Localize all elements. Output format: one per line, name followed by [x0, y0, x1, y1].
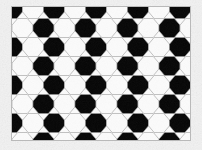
hexagon-cell-dark	[170, 38, 191, 57]
hexagon-cell-light	[138, 57, 159, 76]
image-canvas	[0, 0, 202, 150]
hexagon-cell-dark	[75, 95, 96, 114]
hexagon-cell-light	[107, 38, 128, 57]
hexagon-cell-light	[65, 38, 86, 57]
hexagon-cell-light	[149, 114, 170, 133]
hexagon-cell-dark	[86, 114, 107, 133]
hexagon-cell-dark	[33, 19, 54, 38]
hexagon-cell-dark	[159, 95, 180, 114]
hexagon-cell-light	[54, 95, 75, 114]
hexagon-cell-light	[107, 76, 128, 95]
hexagon-cell-dark	[44, 114, 65, 133]
hexagon-cell-dark	[33, 95, 54, 114]
hexagon-cell-dark	[75, 19, 96, 38]
hexagon-cell-light	[23, 114, 44, 133]
hexagon-cell-dark	[128, 76, 149, 95]
hexagon-cell-light	[149, 38, 170, 57]
hexagon-cell-light	[12, 19, 33, 38]
hexagon-cell-dark	[117, 57, 138, 76]
hexagon-cell-dark	[128, 38, 149, 57]
hexagon-cell-dark	[44, 76, 65, 95]
hexagon-cell-light	[149, 76, 170, 95]
hexagon-cell-light	[54, 57, 75, 76]
hexagon-cell-light	[65, 76, 86, 95]
hexagon-cell-dark	[75, 57, 96, 76]
hexagon-cell-light	[23, 38, 44, 57]
hexagon-cell-light	[96, 19, 117, 38]
hexagon-cell-dark	[44, 38, 65, 57]
hexagon-cell-dark	[159, 57, 180, 76]
hexagon-cell-light	[191, 7, 192, 19]
pattern-frame	[11, 6, 191, 141]
hexagon-cell-light	[191, 76, 192, 95]
hexagon-cell-dark	[128, 114, 149, 133]
hexagon-cells	[12, 7, 191, 141]
hexagon-cell-light	[138, 95, 159, 114]
hexagon-cell-light	[96, 57, 117, 76]
hexagon-cell-dark	[170, 76, 191, 95]
hexagon-cell-light	[191, 38, 192, 57]
hexagon-cell-dark	[170, 114, 191, 133]
hexagon-cell-dark	[159, 19, 180, 38]
hexagon-cell-light	[12, 95, 33, 114]
hexagon-cell-light	[65, 114, 86, 133]
hexagon-cell-dark	[33, 57, 54, 76]
hexagon-cell-light	[12, 57, 33, 76]
hexagon-cell-light	[191, 114, 192, 133]
hexagon-cell-light	[107, 114, 128, 133]
hexagon-cell-light	[23, 76, 44, 95]
hexagon-cell-dark	[86, 38, 107, 57]
hexagon-cell-dark	[117, 95, 138, 114]
hexagon-cell-dark	[86, 76, 107, 95]
hexagon-cell-dark	[117, 19, 138, 38]
hexagon-cell-light	[96, 95, 117, 114]
hexagon-tessellation	[12, 7, 191, 141]
hexagon-cell-light	[138, 19, 159, 38]
hexagon-cell-light	[54, 19, 75, 38]
